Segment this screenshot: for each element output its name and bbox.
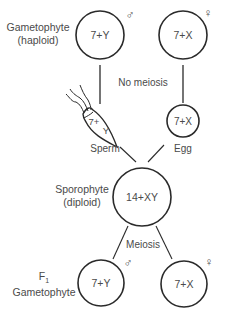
- sperm-label: Sperm: [90, 143, 119, 154]
- top-male-gametophyte-node: 7+Y: [76, 11, 124, 59]
- no-meiosis-label: No meiosis: [118, 77, 167, 88]
- meiosis-label: Meiosis: [126, 239, 160, 250]
- gametophyte-label-line2: (haploid): [18, 34, 59, 46]
- f1-female-gametophyte-node: 7+X: [161, 261, 207, 307]
- sporophyte-node: 14+XY: [113, 168, 171, 226]
- f1-male-gametophyte-node: 7+Y: [78, 260, 124, 306]
- egg-node: 7+X: [167, 105, 199, 137]
- gametophyte-label-line1: Gametophyte: [6, 21, 69, 33]
- connector-sperm-to-sporophyte: [120, 147, 136, 162]
- egg-label: Egg: [174, 143, 192, 154]
- f1-female-value: 7+X: [175, 278, 194, 290]
- sperm-label-b: Y: [103, 125, 110, 136]
- sporophyte-label-line2: (diploid): [63, 196, 100, 208]
- top-male-label: 7+Y: [91, 29, 110, 41]
- f1-male-value: 7+Y: [92, 277, 111, 289]
- f1-male-symbol-icon: ♂: [124, 256, 133, 270]
- egg-value: 7+X: [174, 116, 192, 127]
- sperm-label-a: 7+: [89, 116, 100, 127]
- sporophyte-label-line1: Sporophyte: [55, 183, 109, 195]
- f1-subscript: 1: [45, 277, 49, 284]
- top-female-gametophyte-node: 7+X: [159, 11, 207, 59]
- f1-label-line2: Gametophyte: [12, 286, 75, 298]
- f1-female-symbol-icon: ♀: [205, 255, 214, 269]
- connector-egg-to-sporophyte: [148, 145, 164, 162]
- male-symbol-icon: ♂: [126, 8, 135, 22]
- top-female-label: 7+X: [174, 29, 193, 41]
- f1-label-line1: F1: [39, 270, 49, 284]
- life-cycle-diagram: Gametophyte (haploid) 7+Y ♂ 7+X ♀ No mei…: [0, 0, 226, 328]
- sporophyte-value: 14+XY: [126, 191, 158, 203]
- female-symbol-icon: ♀: [204, 6, 213, 20]
